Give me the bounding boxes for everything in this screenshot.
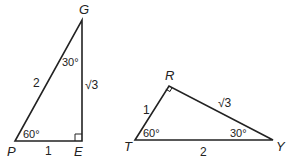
side-eg-label: √3 bbox=[85, 78, 99, 92]
triangle-try: R T Y 1 √3 2 60° 30° bbox=[124, 68, 286, 159]
side-ry-label: √3 bbox=[218, 96, 232, 110]
vertex-e-label: E bbox=[74, 144, 83, 159]
right-angle-marker-e bbox=[75, 134, 82, 141]
vertex-p-label: P bbox=[7, 144, 16, 159]
triangle-peg: G P E 1 2 √3 60° 30° bbox=[7, 2, 99, 159]
diagram-canvas: G P E 1 2 √3 60° 30° R T Y 1 √3 2 60° 30… bbox=[0, 0, 294, 162]
triangle-peg-outline bbox=[15, 20, 82, 141]
side-pe-label: 1 bbox=[45, 144, 52, 158]
vertex-r-label: R bbox=[165, 68, 174, 83]
angle-t-label: 60° bbox=[143, 127, 160, 139]
side-tr-label: 1 bbox=[143, 103, 150, 117]
side-ty-label: 2 bbox=[200, 145, 207, 159]
vertex-g-label: G bbox=[79, 2, 89, 17]
vertex-y-label: Y bbox=[276, 139, 286, 154]
side-pg-label: 2 bbox=[33, 76, 40, 90]
vertex-t-label: T bbox=[124, 139, 133, 154]
angle-p-label: 60° bbox=[23, 128, 40, 140]
angle-y-label: 30° bbox=[230, 127, 247, 139]
angle-g-label: 30° bbox=[62, 56, 79, 68]
